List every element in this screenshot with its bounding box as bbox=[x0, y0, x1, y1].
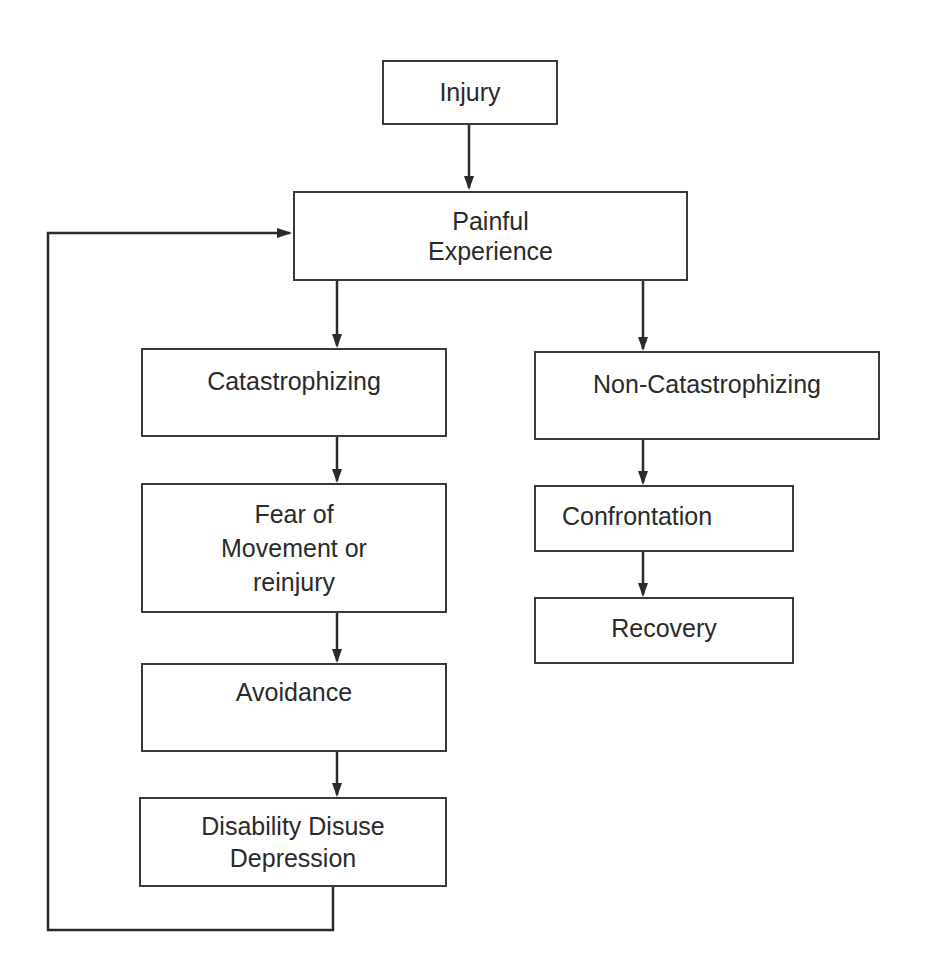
node-label-line2: Experience bbox=[295, 236, 686, 266]
node-non-catastrophizing: Non-Catastrophizing bbox=[534, 351, 880, 440]
node-injury: Injury bbox=[382, 60, 558, 125]
node-label: Recovery bbox=[536, 613, 792, 643]
node-label-line3: reinjury bbox=[143, 567, 445, 597]
node-label-line1: Fear of bbox=[143, 499, 445, 529]
node-label: Injury bbox=[384, 77, 556, 107]
node-label: Confrontation bbox=[536, 501, 792, 531]
node-label: Avoidance bbox=[143, 677, 445, 707]
node-recovery: Recovery bbox=[534, 597, 794, 664]
node-painful-experience: Painful Experience bbox=[293, 191, 688, 281]
node-label-line1: Disability Disuse bbox=[141, 811, 445, 841]
node-disability-disuse-depression: Disability Disuse Depression bbox=[139, 797, 447, 887]
node-label-line1: Painful bbox=[295, 206, 686, 236]
node-confrontation: Confrontation bbox=[534, 485, 794, 552]
node-avoidance: Avoidance bbox=[141, 663, 447, 752]
node-label-line2: Movement or bbox=[143, 533, 445, 563]
node-label-line2: Depression bbox=[141, 843, 445, 873]
node-catastrophizing: Catastrophizing bbox=[141, 348, 447, 437]
node-label: Catastrophizing bbox=[143, 366, 445, 396]
node-fear-of-movement: Fear of Movement or reinjury bbox=[141, 483, 447, 613]
node-label: Non-Catastrophizing bbox=[536, 369, 878, 399]
